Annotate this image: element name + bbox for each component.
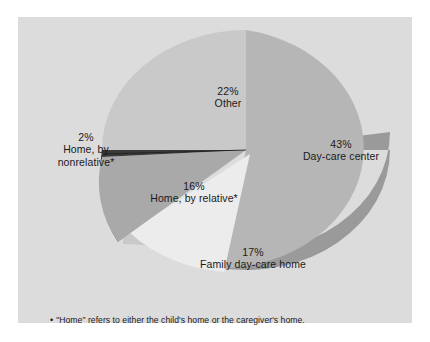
slice-pct-relative: 16% bbox=[114, 180, 274, 192]
slice-label-nonrelative: 2% Home, by nonrelative* bbox=[36, 131, 136, 168]
pie-chart-figure: 43% Day-care center 17% Family day-care … bbox=[0, 0, 430, 342]
slice-name-nonrelative-line2: nonrelative* bbox=[36, 156, 136, 168]
slice-pct-family: 17% bbox=[168, 246, 338, 258]
footnote-text: "Home" refers to either the child's home… bbox=[56, 315, 305, 325]
chart-panel: 43% Day-care center 17% Family day-care … bbox=[18, 17, 412, 323]
slice-label-family: 17% Family day-care home bbox=[168, 246, 338, 271]
pie-chart-graphic bbox=[18, 17, 412, 323]
slice-label-other: 22% Other bbox=[178, 85, 278, 110]
slice-label-daycare: 43% Day-care center bbox=[276, 138, 406, 163]
slice-name-other: Other bbox=[178, 97, 278, 109]
footnote-row: • "Home" refers to either the child's ho… bbox=[50, 315, 410, 325]
footnote-marker-icon: • bbox=[50, 316, 53, 325]
slice-name-family: Family day-care home bbox=[168, 258, 338, 270]
slice-pct-daycare: 43% bbox=[276, 138, 406, 150]
slice-name-daycare: Day-care center bbox=[276, 150, 406, 162]
slice-pct-other: 22% bbox=[178, 85, 278, 97]
slice-name-relative: Home, by relative* bbox=[114, 192, 274, 204]
slice-pct-nonrelative: 2% bbox=[36, 131, 136, 143]
slice-label-relative: 16% Home, by relative* bbox=[114, 180, 274, 205]
slice-name-nonrelative-line1: Home, by bbox=[36, 143, 136, 155]
